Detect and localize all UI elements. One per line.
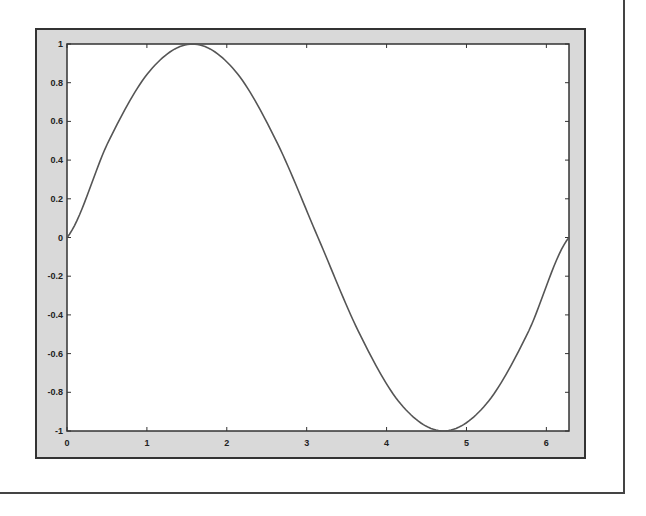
x-tick-label: 6 (544, 438, 549, 448)
sine-chart: 10.80.60.40.20-0.2-0.4-0.6-0.8-1 0123456 (0, 0, 646, 516)
x-tick-label: 4 (384, 438, 389, 448)
y-tick-label: 1 (58, 39, 63, 49)
y-tick-label: -0.8 (47, 387, 63, 397)
y-tick-label: 0.8 (50, 78, 63, 88)
y-tick-label: -0.4 (47, 310, 63, 320)
y-tick-label: -0.2 (47, 271, 63, 281)
x-tick-label: 3 (304, 438, 309, 448)
y-tick-label: 0 (58, 233, 63, 243)
y-tick-label: -0.6 (47, 349, 63, 359)
y-tick-label: -1 (55, 426, 63, 436)
y-tick-label: 0.4 (50, 155, 63, 165)
y-tick-label: 0.2 (50, 194, 63, 204)
x-tick-label: 0 (64, 438, 69, 448)
y-tick-label: 0.6 (50, 116, 63, 126)
x-tick-label: 2 (224, 438, 229, 448)
x-tick-label: 5 (464, 438, 469, 448)
x-tick-label: 1 (144, 438, 149, 448)
